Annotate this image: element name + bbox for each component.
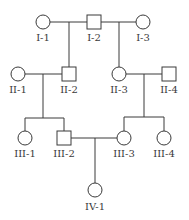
individual-label: I-1	[36, 32, 50, 43]
pedigree-diagram: I-1 I-2 I-3 II-1 II-2 II-3 II-4 III-1 II…	[0, 0, 189, 220]
male-symbol	[162, 67, 176, 81]
connector-lines	[25, 22, 164, 183]
female-symbol	[112, 67, 126, 81]
male-symbol	[87, 15, 101, 29]
female-symbol	[88, 183, 102, 197]
individual-label: I-3	[136, 32, 150, 43]
individual-II-4: II-4	[160, 67, 178, 95]
female-symbol	[11, 67, 25, 81]
male-symbol	[57, 131, 71, 145]
individual-label: II-3	[110, 84, 128, 95]
individual-II-1: II-1	[9, 67, 27, 95]
individual-III-4: III-4	[153, 131, 175, 159]
male-symbol	[62, 67, 76, 81]
female-symbol	[157, 131, 171, 145]
female-symbol	[136, 15, 150, 29]
individual-label: II-1	[9, 84, 27, 95]
female-symbol	[18, 131, 32, 145]
individual-label: III-1	[14, 148, 36, 159]
individual-I-2: I-2	[87, 15, 101, 43]
individual-label: III-4	[153, 148, 175, 159]
individual-II-3: II-3	[110, 67, 128, 95]
individual-III-1: III-1	[14, 131, 36, 159]
individual-label: III-3	[113, 148, 135, 159]
female-symbol	[36, 15, 50, 29]
individual-label: II-4	[160, 84, 178, 95]
individual-label: IV-1	[85, 201, 105, 212]
individual-I-3: I-3	[136, 15, 150, 43]
individual-label: III-2	[53, 148, 75, 159]
individual-IV-1: IV-1	[85, 183, 105, 212]
individual-I-1: I-1	[36, 15, 50, 43]
female-symbol	[117, 131, 131, 145]
individual-III-3: III-3	[113, 131, 135, 159]
individual-II-2: II-2	[60, 67, 78, 95]
individual-III-2: III-2	[53, 131, 75, 159]
individual-label: II-2	[60, 84, 78, 95]
individual-label: I-2	[87, 32, 101, 43]
